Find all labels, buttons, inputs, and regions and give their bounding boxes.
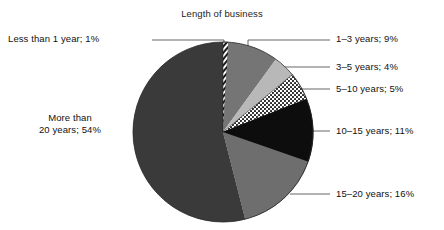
callout-15-20-years-label: 15–20 years; 16% bbox=[336, 188, 414, 199]
callout-10-15-years: 10–15 years; 11% bbox=[336, 125, 413, 137]
callout-more-than-20-years: More than 20 years; 54% bbox=[16, 112, 124, 136]
callout-3-5-years: 3–5 years; 4% bbox=[336, 61, 398, 73]
callout-1-3-years-label: 1–3 years; 9% bbox=[336, 33, 398, 44]
callout-15-20-years: 15–20 years; 16% bbox=[336, 188, 414, 200]
callout-less-than-1-year: Less than 1 year; 1% bbox=[8, 33, 99, 45]
callout-3-5-years-label: 3–5 years; 4% bbox=[336, 61, 398, 72]
callout-5-10-years: 5–10 years; 5% bbox=[336, 83, 403, 95]
callout-5-10-years-label: 5–10 years; 5% bbox=[336, 83, 403, 94]
callout-1-3-years: 1–3 years; 9% bbox=[336, 33, 398, 45]
callout-more-than-20-years-line2: 20 years; 54% bbox=[16, 124, 124, 136]
callout-10-15-years-label: 10–15 years; 11% bbox=[336, 125, 413, 136]
pie-slices bbox=[133, 42, 313, 222]
pie-chart-figure: Length of business bbox=[0, 0, 444, 230]
callout-less-than-1-year-label: Less than 1 year; 1% bbox=[8, 33, 99, 44]
callout-more-than-20-years-line1: More than bbox=[16, 112, 124, 124]
